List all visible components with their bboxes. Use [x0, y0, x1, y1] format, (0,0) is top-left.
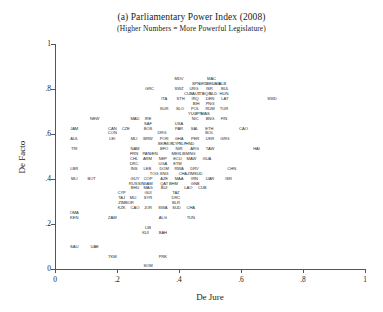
- data-point-label: MAW: [187, 157, 197, 161]
- data-point-label: TRI: [71, 147, 77, 151]
- data-point-label: MLI: [71, 177, 78, 181]
- x-tick-label: .4: [167, 275, 191, 284]
- data-point-label: GUA: [203, 157, 212, 161]
- y-tick-mark: [51, 224, 55, 225]
- x-axis-label: De Jure: [55, 292, 365, 302]
- data-point-label: AUL: [70, 137, 78, 141]
- data-point-label: CHA: [187, 206, 196, 210]
- data-point-label: ALG: [159, 216, 167, 220]
- data-point-label: LAO: [184, 186, 192, 190]
- x-tick-label: .6: [229, 275, 253, 284]
- data-point-label: ISR: [225, 177, 232, 181]
- data-point-label: STH: [177, 97, 185, 101]
- data-point-label: CUB: [198, 186, 207, 190]
- data-point-label: UKR: [206, 137, 215, 141]
- data-point-label: SUD: [172, 206, 181, 210]
- data-point-label: HAI: [253, 147, 260, 151]
- parliamentary-power-index-figure: (a) Parliamentary Power Index (2008) (Hi…: [0, 0, 383, 312]
- data-point-label: CZE: [122, 127, 130, 131]
- data-point-label: ITA: [161, 97, 167, 101]
- data-point-label: BRW: [143, 137, 152, 141]
- x-tick-mark: [55, 269, 56, 273]
- data-point-label: LBR: [70, 167, 78, 171]
- data-point-label: MDV: [175, 77, 184, 81]
- data-point-label: SWZ: [175, 87, 184, 91]
- data-point-label: KUI: [142, 231, 149, 235]
- data-point-label: BHM: [169, 181, 178, 185]
- data-point-label: UAR: [206, 177, 215, 181]
- chart-title: (a) Parliamentary Power Index (2008): [0, 12, 383, 24]
- y-axis-line: [55, 44, 56, 269]
- data-point-label: BHU: [131, 186, 140, 190]
- scatter-plot-area: 0.2.4.6.81 0.2.4.6.81 MDVMACSPNGRDBELVAN…: [55, 44, 365, 269]
- x-tick-mark: [179, 269, 180, 273]
- data-point-label: UAE: [91, 244, 99, 248]
- data-point-label: JOR: [144, 206, 152, 210]
- data-point-label: JAM: [70, 127, 78, 131]
- data-point-label: DRG: [157, 131, 166, 135]
- x-axis-line: [55, 269, 365, 270]
- data-point-label: SOM: [143, 264, 152, 268]
- data-point-label: BOL: [205, 131, 213, 135]
- data-point-label: NEW: [90, 117, 99, 121]
- data-point-label: BOT: [87, 177, 95, 181]
- data-point-label: CAO: [131, 206, 140, 210]
- x-tick-mark: [365, 269, 366, 273]
- data-point-label: MLI: [131, 137, 138, 141]
- y-axis-label: De Facto: [17, 140, 27, 173]
- data-point-label: BFO: [160, 147, 168, 151]
- y-tick-mark: [51, 134, 55, 135]
- data-point-label: GRG: [220, 137, 229, 141]
- data-point-label: SWA: [158, 206, 167, 210]
- data-point-label: BAH: [159, 231, 167, 235]
- y-tick-mark: [51, 44, 55, 45]
- x-tick-label: .8: [291, 275, 315, 284]
- chart-subtitle: (Higher Numbers = More Powerful Legislat…: [0, 24, 383, 33]
- data-point-label: KEN: [70, 216, 78, 220]
- data-point-label: LAT: [221, 97, 228, 101]
- data-point-label: PAR: [175, 127, 183, 131]
- data-point-label: GRC: [145, 87, 154, 91]
- y-tick-label: .6: [29, 129, 51, 138]
- data-point-label: SUR: [160, 107, 169, 111]
- y-tick-mark: [51, 179, 55, 180]
- x-tick-mark: [117, 269, 118, 273]
- x-tick-label: 0: [43, 275, 67, 284]
- data-point-label: SAL: [191, 127, 199, 131]
- y-tick-label: .2: [29, 219, 51, 228]
- data-point-label: NIC: [192, 117, 199, 121]
- data-point-label: CON: [108, 131, 117, 135]
- data-point-label: ARM: [143, 157, 152, 161]
- chart-title-block: (a) Parliamentary Power Index (2008) (Hi…: [0, 12, 383, 33]
- y-tick-mark: [51, 89, 55, 90]
- y-tick-label: 1: [29, 39, 51, 48]
- data-point-label: CAO: [239, 127, 248, 131]
- data-point-label: BNG: [206, 117, 215, 121]
- data-point-label: CHN: [227, 167, 236, 171]
- data-point-label: PRK: [159, 255, 167, 259]
- data-point-label: TAW: [206, 147, 215, 151]
- data-point-label: SLO: [176, 107, 184, 111]
- data-point-label: BOS: [144, 127, 153, 131]
- x-tick-mark: [241, 269, 242, 273]
- x-tick-label: 1: [353, 275, 377, 284]
- y-tick-label: .4: [29, 174, 51, 183]
- data-point-label: TUN: [187, 216, 195, 220]
- x-tick-label: .2: [105, 275, 129, 284]
- data-point-label: ZAM: [108, 216, 117, 220]
- data-point-label: FIN: [221, 117, 227, 121]
- data-point-label: BUI: [161, 186, 168, 190]
- data-point-label: LEI: [109, 137, 115, 141]
- data-point-label: KZK: [118, 206, 126, 210]
- data-point-label: TUR: [220, 107, 228, 111]
- data-point-label: INS: [131, 167, 138, 171]
- data-point-label: TKM: [108, 255, 117, 259]
- y-tick-label: 0: [29, 264, 51, 273]
- x-tick-mark: [303, 269, 304, 273]
- data-point-label: SAU: [70, 244, 78, 248]
- y-tick-label: .8: [29, 84, 51, 93]
- data-point-label: MAD: [130, 117, 139, 121]
- data-point-label: SWD: [267, 97, 276, 101]
- data-point-label: SYR: [144, 196, 152, 200]
